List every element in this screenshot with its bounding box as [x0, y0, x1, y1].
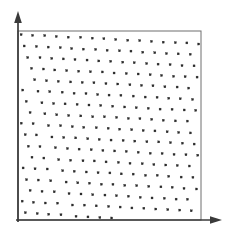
- scatter-point: [82, 160, 84, 162]
- scatter-point: [141, 84, 143, 86]
- scatter-point: [44, 202, 46, 204]
- scatter-point: [195, 109, 197, 111]
- scatter-point: [120, 173, 122, 175]
- scatter-point: [61, 91, 63, 93]
- scatter-point: [188, 165, 190, 167]
- scatter-point: [137, 151, 139, 153]
- scatter-point: [50, 180, 52, 182]
- scatter-point: [156, 174, 158, 176]
- scatter-point: [127, 195, 129, 197]
- scatter-point: [116, 116, 118, 118]
- scatter-point: [41, 102, 43, 104]
- scatter-point: [183, 109, 185, 111]
- scatter-point: [32, 123, 34, 125]
- scatter-point: [34, 79, 36, 81]
- scatter-point: [99, 217, 101, 219]
- scatter-point: [125, 73, 127, 75]
- scatter-point: [159, 108, 161, 110]
- scatter-point: [175, 198, 177, 200]
- scatter-point: [104, 194, 106, 196]
- scatter-point: [75, 137, 77, 139]
- scatter-point: [117, 161, 119, 163]
- scatter-point: [166, 131, 168, 133]
- scatter-point: [179, 98, 181, 100]
- scatter-point: [70, 159, 72, 161]
- scatter-point: [46, 80, 48, 82]
- scatter-point: [113, 72, 115, 74]
- scatter-point: [75, 215, 77, 217]
- scatter-point: [86, 59, 88, 61]
- scatter-point: [27, 145, 29, 147]
- scatter-point: [100, 183, 102, 185]
- scatter-point: [59, 47, 61, 49]
- scatter-point: [122, 139, 124, 141]
- scatter-point: [110, 139, 112, 141]
- scatter-point: [147, 107, 149, 109]
- scatter-point: [129, 84, 131, 86]
- scatter-point: [169, 142, 171, 144]
- scatter-point: [22, 167, 24, 169]
- scatter-point: [66, 148, 68, 150]
- scatter-point: [29, 189, 31, 191]
- scatter-point: [103, 116, 105, 118]
- scatter-point: [47, 46, 49, 48]
- scatter-point: [83, 126, 85, 128]
- scatter-point: [60, 125, 62, 127]
- scatter-point: [20, 34, 22, 36]
- scatter-point: [131, 129, 133, 131]
- scatter-point: [192, 176, 194, 178]
- scatter-point: [36, 213, 38, 215]
- scatter-point: [35, 45, 37, 47]
- scatter-point: [145, 174, 147, 176]
- x-axis-arrow-icon: [210, 216, 222, 224]
- scatter-points-group: [20, 34, 200, 219]
- scatter-point: [112, 183, 114, 185]
- scatter-point: [98, 60, 100, 62]
- scatter-point: [186, 42, 188, 44]
- scatter-point: [70, 81, 72, 83]
- scatter-point: [62, 170, 64, 172]
- scatter-point: [112, 105, 114, 107]
- scatter-point: [134, 140, 136, 142]
- scatter-point: [156, 96, 158, 98]
- scatter-point: [71, 204, 73, 206]
- scatter-point: [97, 172, 99, 174]
- scatter-point: [142, 130, 144, 132]
- scatter-point: [173, 153, 175, 155]
- scatter-point: [179, 209, 181, 211]
- scatter-point: [57, 202, 59, 204]
- scatter-point: [87, 138, 89, 140]
- scatter-point: [23, 45, 25, 47]
- figure-container: [0, 0, 226, 232]
- scatter-point: [158, 141, 160, 143]
- scatter-point: [162, 119, 164, 121]
- scatter-point: [88, 104, 90, 106]
- scatter-point: [27, 57, 29, 59]
- scatter-point: [196, 76, 198, 78]
- scatter-point: [111, 217, 113, 219]
- scatter-point: [178, 131, 180, 133]
- scatter-point: [144, 96, 146, 98]
- scatter-point: [68, 115, 70, 117]
- scatter-point: [56, 114, 58, 116]
- scatter-point: [171, 186, 173, 188]
- scatter-point: [89, 71, 91, 73]
- scatter-point: [39, 146, 41, 148]
- scatter-point: [98, 138, 100, 140]
- scatter-point: [21, 200, 23, 202]
- scatter-point: [165, 164, 167, 166]
- scatter-point: [139, 196, 141, 198]
- scatter-point: [83, 204, 85, 206]
- scatter-point: [141, 163, 143, 165]
- scatter-point: [115, 39, 117, 41]
- scatter-point: [185, 154, 187, 156]
- scatter-point: [67, 36, 69, 38]
- scatter-point: [110, 60, 112, 62]
- scatter-point: [168, 97, 170, 99]
- scatter-point: [146, 141, 148, 143]
- scatter-point: [151, 197, 153, 199]
- scatter-point: [107, 127, 109, 129]
- scatter-point: [53, 103, 55, 105]
- scatter-point: [93, 82, 95, 84]
- scatter-point: [165, 53, 167, 55]
